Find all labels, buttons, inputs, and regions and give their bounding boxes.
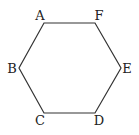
vertex-label-c: C xyxy=(35,113,45,128)
vertex-label-f: F xyxy=(94,8,103,23)
vertex-label-b: B xyxy=(7,61,17,76)
vertex-label-e: E xyxy=(122,61,132,76)
hexagon-shape xyxy=(19,23,121,113)
vertex-label-d: D xyxy=(94,113,104,128)
vertex-label-a: A xyxy=(34,8,45,23)
hexagon-diagram: A F E D C B xyxy=(0,0,139,135)
